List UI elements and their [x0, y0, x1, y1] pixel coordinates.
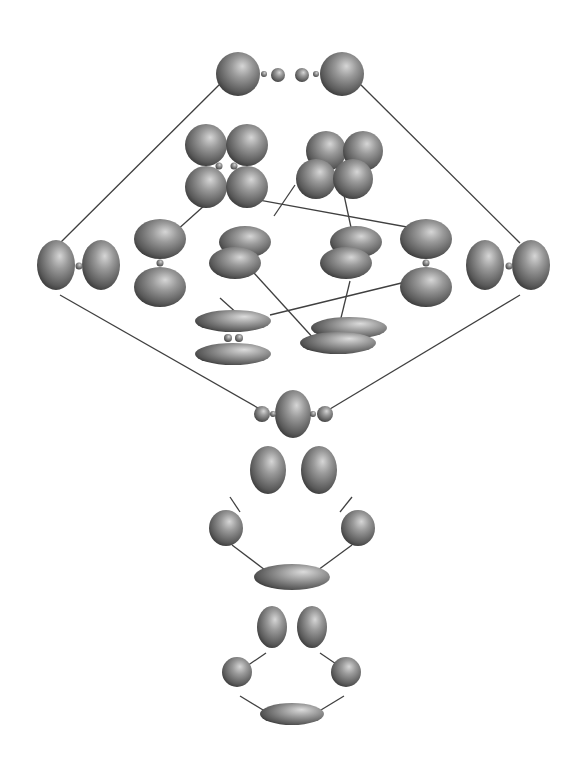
cluster-a-node-left	[216, 163, 223, 170]
flat-left-node-a	[224, 334, 232, 342]
ring2-top-left-shape	[257, 606, 287, 648]
dz-left-node	[157, 260, 164, 267]
flat-left-node-b	[235, 334, 243, 342]
connector-line	[340, 497, 352, 512]
top-tiny-left	[261, 71, 267, 77]
connector-line	[60, 84, 220, 243]
connector-line	[360, 84, 520, 243]
dz-right-node	[423, 260, 430, 267]
center-tiny-left	[270, 411, 276, 417]
connector-line	[325, 295, 520, 412]
flat-right-front-shape	[300, 332, 376, 354]
center-small-left-shape	[254, 406, 270, 422]
cluster-a-bl-shape	[185, 166, 227, 208]
orbital-lattice-diagram	[0, 0, 586, 766]
ring1-mid-left-shape	[209, 510, 243, 546]
top-small-right-shape	[295, 68, 309, 82]
dz-left-bottom-shape	[134, 267, 186, 307]
cluster-a-node-right	[231, 163, 238, 170]
ring1-bottom-shape	[254, 564, 330, 590]
cluster-a-tr-shape	[226, 124, 268, 166]
cluster-a-tl-shape	[185, 124, 227, 166]
connector-line	[232, 545, 265, 570]
flat-left-top-shape	[195, 310, 271, 332]
connector-line	[318, 545, 352, 570]
ring2-top-right-shape	[297, 606, 327, 648]
ring1-top-left-shape	[250, 446, 286, 494]
top-tiny-right	[313, 71, 319, 77]
ring1-mid-right-shape	[341, 510, 375, 546]
right-lobe-outer-shape	[512, 240, 550, 290]
left-lobe-outer-shape	[37, 240, 75, 290]
top-small-left-shape	[271, 68, 285, 82]
connector-line	[230, 497, 240, 512]
right-lobe-node	[506, 263, 513, 270]
top-left-sphere-shape	[216, 52, 260, 96]
left-lobe-inner-shape	[82, 240, 120, 290]
ring2-bottom-shape	[260, 703, 324, 725]
connector-line	[274, 185, 295, 216]
connector-line	[340, 281, 350, 322]
ring1-top-right-shape	[301, 446, 337, 494]
dz-right-top-shape	[400, 219, 452, 259]
orbital-lobes	[37, 52, 550, 725]
cluster-b-bl-shape	[296, 159, 336, 199]
ring2-mid-right-shape	[331, 657, 361, 687]
top-right-sphere-shape	[320, 52, 364, 96]
center-tiny-right	[310, 411, 316, 417]
center-small-right-shape	[317, 406, 333, 422]
pair-b-front-shape	[320, 247, 372, 279]
pair-a-front-shape	[209, 247, 261, 279]
cluster-b-br-shape	[333, 159, 373, 199]
ring2-mid-left-shape	[222, 657, 252, 687]
flat-left-bottom-shape	[195, 343, 271, 365]
right-lobe-inner-shape	[466, 240, 504, 290]
left-lobe-node	[76, 263, 83, 270]
dz-right-bottom-shape	[400, 267, 452, 307]
center-lobe-shape	[275, 390, 311, 438]
orbital-diagram-canvas	[0, 0, 586, 766]
dz-left-top-shape	[134, 219, 186, 259]
cluster-a-br-shape	[226, 166, 268, 208]
